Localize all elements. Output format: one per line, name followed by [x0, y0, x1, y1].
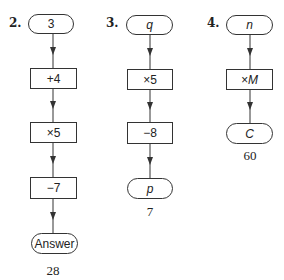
arrow-down-icon — [50, 212, 56, 220]
process-box-add: +4 — [30, 68, 77, 89]
problem-number: 4. — [207, 16, 220, 30]
arrow-down-icon — [50, 156, 56, 164]
problem-number: 2. — [9, 16, 22, 30]
process-box-multiply: ×5 — [30, 122, 77, 143]
start-terminal: n — [226, 15, 273, 35]
end-terminal: Answer — [31, 233, 78, 254]
arrow-down-icon — [50, 47, 56, 55]
process-box-subtract: −7 — [30, 177, 77, 199]
result-value: 28 — [28, 263, 78, 279]
arrow-down-icon — [147, 157, 153, 165]
arrow-down-icon — [50, 101, 56, 109]
arrow-down-icon — [147, 48, 153, 56]
end-terminal: C — [226, 123, 273, 144]
end-terminal: p — [127, 178, 173, 199]
result-value: 7 — [125, 204, 175, 220]
start-terminal: q — [126, 15, 173, 35]
process-box-multiply: ×5 — [127, 69, 173, 90]
start-terminal: 3 — [28, 14, 74, 34]
arrow-down-icon — [147, 102, 153, 110]
problem-number: 3. — [106, 16, 119, 30]
process-box-multiply: ×M — [226, 69, 273, 90]
process-box-subtract: −8 — [127, 122, 173, 144]
result-value: 60 — [225, 148, 275, 164]
arrow-down-icon — [247, 48, 253, 56]
arrow-down-icon — [247, 102, 253, 110]
